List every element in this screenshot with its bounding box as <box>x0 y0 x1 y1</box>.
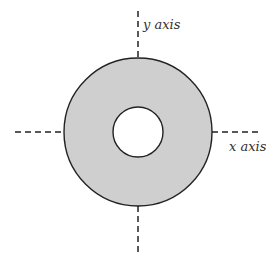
inner-circle <box>113 107 163 157</box>
y-axis-label: y axis <box>142 17 181 32</box>
ring-region <box>64 58 212 206</box>
annulus-diagram: y axis x axis <box>0 0 266 255</box>
x-axis-label: x axis <box>229 139 266 154</box>
